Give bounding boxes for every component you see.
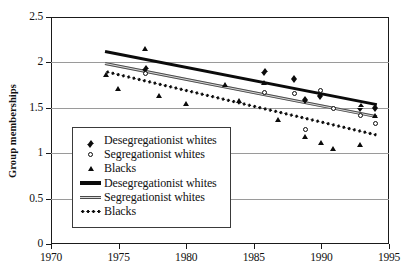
data-point-filled-triangle [156,93,162,98]
legend-item-3[interactable]: Desegregationist whites [77,176,226,190]
legend-item-label: Desegregationist whites [104,176,217,191]
data-point-filled-triangle [236,98,242,103]
y-tick-2 [46,62,51,63]
y-axis-title: Group memberships [7,84,18,178]
x-tick-label-1980: 1980 [166,251,206,263]
y-tick-label-2.5: 2.5 [13,10,43,22]
y-tick-2.5 [46,17,51,18]
data-point-filled-triangle [222,82,228,87]
data-point-filled-triangle [103,72,109,77]
data-point-filled-diamond [143,62,149,69]
data-point-open-circle [331,106,336,111]
data-point-open-circle [292,91,297,96]
data-point-filled-diamond [358,100,364,107]
y-tick-1.5 [46,108,51,109]
x-tick-label-1975: 1975 [99,251,139,263]
data-point-filled-triangle [115,86,121,91]
x-tick-1975 [119,244,120,249]
legend-item-5[interactable]: Blacks [77,204,226,218]
data-point-open-circle [358,113,363,118]
data-point-open-circle [373,121,378,126]
x-tick-1990 [321,244,322,249]
data-point-filled-diamond [302,93,308,100]
y-tick-label-0: 0 [13,237,43,249]
data-point-filled-triangle [142,46,148,51]
y-tick-label-1.5: 1.5 [13,101,43,113]
y-tick-label-1: 1 [13,146,43,158]
data-point-filled-diamond [262,65,268,72]
data-point-filled-triangle [302,134,308,139]
data-point-filled-triangle [330,146,336,151]
y-tick-label-2: 2 [13,55,43,67]
thick-black-icon [77,181,104,184]
x-tick-1970 [51,244,52,249]
x-tick-label-1985: 1985 [234,251,274,263]
data-point-open-circle [303,127,308,132]
x-tick-label-1990: 1990 [301,251,341,263]
data-point-filled-triangle [357,142,363,147]
legend-item-label: Blacks [104,204,136,219]
y-tick-1 [46,153,51,154]
y-tick-0.5 [46,199,51,200]
open-circle-icon [77,152,104,157]
legend-item-2[interactable]: Blacks [77,162,226,176]
x-tick-1985 [254,244,255,249]
chart-legend: Desegregationist whitesSegregationist wh… [72,127,231,228]
data-point-filled-triangle [183,101,189,106]
data-point-open-circle [318,88,323,93]
x-tick-label-1995: 1995 [369,251,409,263]
data-point-filled-diamond [291,72,297,79]
double-grey-icon [77,196,104,200]
x-tick-1995 [389,244,390,249]
legend-item-label: Segregationist whites [104,147,205,162]
data-point-filled-triangle [372,113,378,118]
legend-item-1[interactable]: Segregationist whites [77,147,226,161]
filled-triangle-icon [77,166,104,171]
data-point-filled-diamond [372,101,378,108]
gridline-y-2 [51,62,389,63]
x-tick-1980 [186,244,187,249]
x-tick-label-1970: 1970 [31,251,71,263]
y-tick-label-0.5: 0.5 [13,192,43,204]
data-point-filled-triangle [261,80,267,85]
legend-item-label: Segregationist whites [104,190,205,205]
dotted-black-icon [77,210,104,213]
chart-root: Group memberships 00.511.522.5 197019751… [0,0,409,277]
legend-item-0[interactable]: Desegregationist whites [77,133,226,147]
filled-diamond-icon [77,137,104,144]
legend-item-label: Desegregationist whites [104,133,217,148]
data-point-filled-triangle [318,140,324,145]
legend-item-4[interactable]: Segregationist whites [77,190,226,204]
data-point-filled-triangle [275,117,281,122]
legend-item-label: Blacks [104,161,136,176]
